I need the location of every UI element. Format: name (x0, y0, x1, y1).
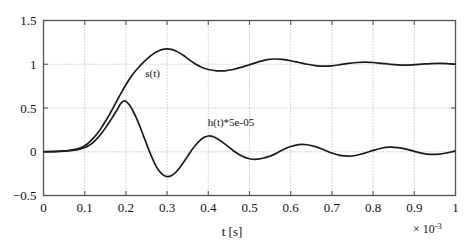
figure-container: 00.10.20.30.40.50.60.70.80.91−0.500.511.… (0, 0, 472, 242)
x-tick-label: 0.3 (159, 200, 175, 215)
x-tick-label: 0 (40, 200, 47, 215)
x-tick-label: 0.1 (77, 200, 93, 215)
annotation-h-t-5e-05: h(t)*5e-05 (208, 116, 255, 129)
y-tick-label: 1.5 (20, 13, 36, 28)
y-tick-label: −0.5 (13, 188, 37, 203)
chart-canvas: 00.10.20.30.40.50.60.70.80.91−0.500.511.… (0, 0, 472, 242)
x-tick-label: 0.7 (324, 200, 341, 215)
y-tick-label: 1 (30, 57, 37, 72)
x-axis-title: t [s] (222, 224, 243, 239)
x-axis-exponent-base: × 10 (413, 222, 435, 236)
x-tick-label: 0.9 (406, 200, 422, 215)
x-tick-label: 0.6 (283, 200, 300, 215)
y-tick-label: 0.5 (20, 101, 36, 116)
x-tick-label: 0.2 (118, 200, 134, 215)
x-tick-label: 0.5 (241, 200, 257, 215)
x-tick-label: 0.8 (365, 200, 381, 215)
y-tick-label: 0 (30, 144, 37, 159)
x-tick-label: 1 (452, 200, 459, 215)
x-tick-label: 0.4 (200, 200, 217, 215)
x-axis-exponent-power: -3 (435, 221, 442, 231)
annotation-s-t: s(t) (145, 67, 160, 80)
